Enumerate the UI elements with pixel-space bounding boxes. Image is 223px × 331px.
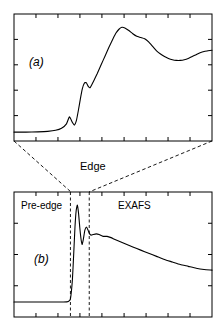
pre-edge-label: Pre-edge xyxy=(21,201,62,211)
panel-a-label: (a) xyxy=(29,56,44,68)
exafs-label: EXAFS xyxy=(118,201,151,211)
edge-label: Edge xyxy=(80,161,106,172)
figure-background xyxy=(0,0,223,331)
xafs-spectrum-figure xyxy=(0,0,223,331)
panel-b-label: (b) xyxy=(34,253,49,265)
